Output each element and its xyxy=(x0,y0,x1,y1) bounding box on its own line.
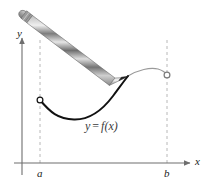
pencil-body-icon xyxy=(27,16,115,86)
equation-paren-close: ) xyxy=(114,119,118,133)
equation-equals-sign: = xyxy=(90,119,101,133)
curve-undrawn-segment xyxy=(128,68,167,76)
endpoint-marker-b xyxy=(164,72,170,78)
function-graph-figure: y x a b y=f(x) xyxy=(0,0,210,188)
tick-label-b: b xyxy=(164,168,170,179)
function-equation-label: y=f(x) xyxy=(85,120,118,132)
x-axis-label: x xyxy=(195,156,200,167)
endpoint-marker-a xyxy=(37,97,43,103)
y-axis-label: y xyxy=(17,28,22,39)
pencil xyxy=(17,9,128,86)
tick-label-a: a xyxy=(37,168,43,179)
figure-canvas xyxy=(0,0,210,188)
